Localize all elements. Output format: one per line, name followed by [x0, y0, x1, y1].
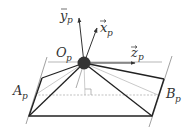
y-axis-arrow: [79, 18, 84, 63]
point-b-label-sub: p: [175, 94, 181, 104]
point-a-label-sub: p: [22, 91, 28, 101]
right-angle-mark: [85, 89, 91, 95]
coordinate-diagram: y p x p z p O p A p B p: [0, 0, 192, 137]
ray-bottom-left: [29, 63, 84, 116]
origin-label: O p: [56, 45, 72, 63]
origin-label-sub: p: [66, 53, 72, 63]
point-a-label-main: A: [12, 83, 22, 98]
point-b-label-main: B: [165, 86, 176, 101]
y-axis-label-sub: p: [67, 15, 73, 25]
ray-bottom-right: [84, 63, 152, 116]
ray-top-right: [84, 63, 164, 79]
x-axis-label-sub: p: [107, 28, 113, 38]
point-a-label: A p: [12, 83, 28, 101]
ray-top-left: [42, 63, 84, 78]
z-axis-label-sub: p: [138, 52, 144, 62]
x-axis-label: x p: [100, 20, 113, 39]
z-axis-label: z p: [130, 45, 144, 62]
origin-sphere: [78, 57, 91, 70]
light-ray: [84, 63, 158, 95]
y-axis-label: y p: [59, 8, 73, 25]
point-b-label: B p: [165, 86, 181, 104]
